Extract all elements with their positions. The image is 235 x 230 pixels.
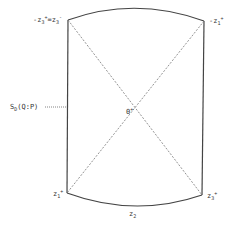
center-label: 0+ — [126, 106, 133, 116]
diagonal-tr-bl — [67, 21, 204, 193]
bottom-arc — [67, 193, 202, 206]
vertex-label-bottom-left: z1+ — [53, 188, 63, 199]
vertex-label-top-left: -z3+=z3- — [33, 14, 62, 25]
right-edge — [202, 21, 204, 195]
vertex-label-bottom-right: z3+ — [207, 190, 217, 201]
diagonal-tl-br — [68, 20, 202, 195]
top-arc — [68, 8, 204, 21]
left-edge — [67, 20, 68, 193]
bottom-edge-label: z2 — [129, 210, 136, 219]
vertex-label-top-right: -z1+ — [209, 15, 223, 26]
edge-annotation-sd: SD(Q:P) — [10, 103, 38, 112]
diagram-canvas: -z3+=z3- -z1+ SD(Q:P) 0+ z1+ z3+ z2 — [0, 0, 235, 230]
